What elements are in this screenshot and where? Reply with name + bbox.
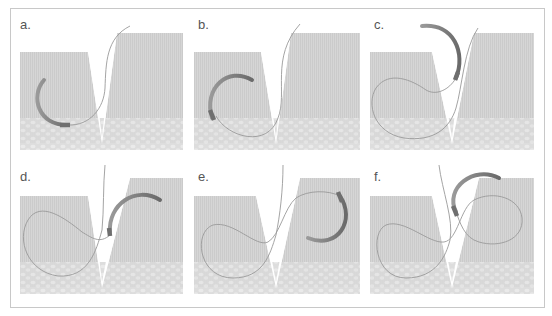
wound-illustration (364, 8, 542, 158)
panel-c: c. (364, 8, 542, 158)
needle-swage (455, 72, 458, 80)
panel-a: a. (10, 8, 188, 158)
wound-illustration (10, 160, 188, 310)
panel-b: b. (188, 8, 366, 158)
wound-illustration (188, 160, 366, 310)
tissue (194, 33, 360, 150)
wound-illustration (364, 160, 542, 310)
needle-swage (109, 228, 110, 236)
panel-f: f. (364, 160, 542, 310)
panel-d: d. (10, 160, 188, 310)
tissue (20, 33, 183, 150)
tissue (370, 33, 534, 150)
wound-illustration (10, 8, 188, 158)
wound-illustration (188, 8, 366, 158)
tissue (20, 178, 183, 294)
needle-swage (453, 206, 457, 216)
panel-e: e. (188, 160, 366, 310)
